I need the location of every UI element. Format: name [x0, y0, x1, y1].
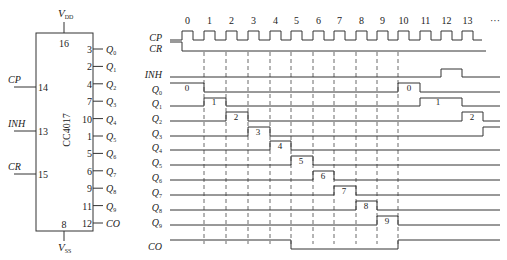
output-pin-number: 10 — [82, 114, 92, 125]
waveform-q3 — [170, 127, 500, 136]
signal-label-cr: CR — [149, 43, 162, 54]
state-number: 2 — [234, 112, 239, 122]
input-pin-number: 13 — [38, 126, 48, 137]
timing-waveforms: 012345678910111213···CPCRINHQ000Q111Q222… — [144, 15, 500, 252]
clock-number: 11 — [421, 15, 431, 26]
signal-label-q3: Q3 — [152, 128, 162, 140]
waveform-q8 — [170, 201, 500, 210]
state-number: 6 — [321, 171, 326, 181]
waveform-cp — [170, 31, 482, 40]
input-pin-number: 15 — [38, 169, 48, 180]
state-number: 1 — [212, 97, 217, 107]
clock-number: 2 — [229, 15, 234, 26]
state-number: 7 — [342, 186, 347, 196]
state-number: 5 — [299, 156, 304, 166]
output-pin-number: 6 — [87, 166, 92, 177]
clock-number: 7 — [337, 15, 342, 26]
waveform-q9 — [170, 216, 500, 225]
signal-label-q7: Q7 — [152, 187, 162, 199]
signal-label-q4: Q4 — [152, 142, 162, 154]
signal-label-inh: INH — [144, 69, 163, 80]
waveform-q0 — [170, 83, 500, 92]
output-label: Q3 — [106, 96, 116, 108]
chip-name: CC4017 — [61, 113, 72, 146]
clock-number: 1 — [207, 15, 212, 26]
output-label: Q2 — [106, 79, 116, 91]
output-pin-number: 5 — [87, 148, 92, 159]
output-label: Q6 — [106, 148, 116, 160]
output-pin-number: 4 — [87, 79, 92, 90]
vss-label: VSS — [58, 241, 71, 254]
output-pin-number: 3 — [87, 44, 92, 55]
clock-number: 13 — [463, 15, 473, 26]
clock-number: 12 — [442, 15, 452, 26]
signal-label-q9: Q9 — [152, 217, 162, 229]
clock-number: 10 — [399, 15, 409, 26]
signal-label-cp: CP — [149, 32, 162, 43]
signal-label-q8: Q8 — [152, 202, 162, 214]
clock-number: 8 — [359, 15, 364, 26]
clock-number: 3 — [251, 15, 256, 26]
cc4017-timing-diagram: VDD16VSS8CC4017CP14INH13CR153Q02Q14Q27Q3… — [0, 0, 507, 260]
waveform-inh — [170, 69, 500, 77]
input-label-cp: CP — [8, 74, 21, 85]
vdd-label: VDD — [58, 7, 74, 20]
signal-label-q5: Q5 — [152, 157, 162, 169]
output-label: Q7 — [106, 166, 116, 178]
output-pin-number: 9 — [87, 183, 92, 194]
waveform-q6 — [170, 171, 500, 180]
state-number: 0 — [185, 83, 190, 93]
output-pin-number: 2 — [87, 61, 92, 72]
waveform-q4 — [170, 141, 500, 150]
input-pin-number: 14 — [38, 82, 48, 93]
state-number: 2 — [470, 112, 475, 122]
output-label: Q4 — [106, 114, 116, 126]
state-number: 1 — [436, 97, 441, 107]
output-label: Q0 — [106, 44, 116, 56]
waveform-q1 — [170, 98, 500, 106]
state-number: 0 — [407, 83, 412, 93]
output-label: Q8 — [106, 183, 116, 195]
diagram-canvas: VDD16VSS8CC4017CP14INH13CR153Q02Q14Q27Q3… — [0, 0, 507, 260]
signal-label-q0: Q0 — [152, 84, 162, 96]
output-pin-number: 7 — [87, 96, 92, 107]
output-label: CO — [106, 218, 120, 229]
ellipsis: ··· — [490, 15, 500, 26]
output-pin-number: 11 — [82, 201, 92, 212]
waveform-cr — [170, 42, 486, 51]
input-label-cr: CR — [8, 161, 21, 172]
output-label: Q1 — [106, 61, 116, 73]
state-number: 3 — [256, 127, 261, 137]
input-label-inh: INH — [7, 118, 26, 129]
output-pin-number: 1 — [87, 131, 92, 142]
clock-number: 9 — [380, 15, 385, 26]
clock-number: 5 — [294, 15, 299, 26]
clock-number: 0 — [185, 15, 190, 26]
waveform-q7 — [170, 186, 500, 195]
vdd-pin-number: 16 — [59, 38, 69, 49]
signal-label-q6: Q6 — [152, 172, 162, 184]
clock-number: 6 — [316, 15, 321, 26]
output-pin-number: 12 — [82, 218, 92, 229]
output-label: Q9 — [106, 201, 116, 213]
waveform-q5 — [170, 156, 500, 165]
waveform-co — [170, 240, 500, 249]
signal-label-q1: Q1 — [152, 98, 162, 110]
chip-pinout: VDD16VSS8CC4017CP14INH13CR153Q02Q14Q27Q3… — [7, 7, 120, 254]
signal-label-co: CO — [148, 241, 162, 252]
waveform-q2 — [170, 112, 500, 121]
vss-pin-number: 8 — [62, 219, 67, 230]
state-number: 8 — [364, 201, 369, 211]
output-label: Q5 — [106, 131, 116, 143]
signal-label-q2: Q2 — [152, 113, 162, 125]
state-number: 4 — [278, 141, 283, 151]
clock-number: 4 — [273, 15, 278, 26]
state-number: 9 — [385, 216, 390, 226]
